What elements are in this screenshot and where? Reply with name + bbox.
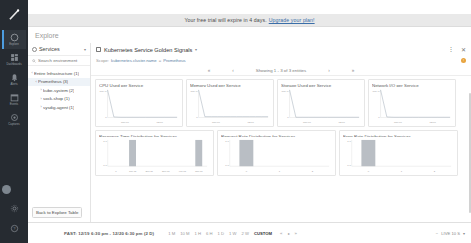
dashboard-header: Kubernetes Service Golden Signals ▾ ⋮ ✕ bbox=[91, 43, 471, 56]
search-input[interactable] bbox=[38, 58, 86, 63]
search-row[interactable] bbox=[28, 56, 90, 66]
chart-title: Response Time Distribution for Services bbox=[99, 134, 210, 137]
svg-text:Thu 00: Thu 00 bbox=[394, 121, 402, 124]
zoom-out-button[interactable]: − bbox=[436, 231, 438, 236]
sidebar-item-settings[interactable] bbox=[2, 199, 26, 218]
tree-item-label: Entire Infrastructure (1) bbox=[34, 71, 79, 76]
chart-plot: 1.00.0012 bbox=[221, 138, 332, 173]
svg-text:12:00: 12:00 bbox=[248, 121, 255, 124]
page-title-bar: Explore bbox=[28, 27, 471, 43]
svg-text:1.0: 1.0 bbox=[347, 140, 351, 143]
chart-card[interactable]: CPU Used per Service100 %0Thu 0012:00 bbox=[95, 79, 183, 127]
pager-last-button[interactable]: » bbox=[352, 68, 355, 73]
tree-item[interactable]: ›sock-shop (1) bbox=[28, 95, 90, 104]
svg-text:500 µs: 500 µs bbox=[195, 170, 203, 173]
time-nav-first[interactable]: « bbox=[280, 231, 282, 236]
chart-card[interactable]: Memory Used per Service100 %0Thu 0012:00 bbox=[186, 79, 274, 127]
back-to-explore-table-button[interactable]: Back to Explore Table bbox=[32, 207, 82, 218]
chart-row-1: CPU Used per Service100 %0Thu 0012:00Mem… bbox=[95, 79, 467, 127]
dashboard-icon bbox=[10, 53, 19, 62]
time-nav-play[interactable]: ▸ bbox=[288, 231, 290, 236]
sidebar-label-alerts: Alerts bbox=[10, 83, 17, 86]
sidebar-item-help[interactable]: ? bbox=[2, 219, 26, 238]
chart-card[interactable]: Storage Used per Service100 %0Thu 0012:0… bbox=[277, 79, 365, 127]
time-preset-1h[interactable]: 1 H bbox=[194, 231, 201, 236]
dashboard-title: Kubernetes Service Golden Signals bbox=[104, 47, 192, 53]
svg-text:1.0: 1.0 bbox=[103, 140, 107, 143]
time-preset-1m[interactable]: 1 M bbox=[168, 231, 175, 236]
panel-footer: Back to Explore Table bbox=[28, 202, 90, 222]
live-mode-button[interactable]: LIVE 10 S bbox=[441, 231, 460, 236]
chart-card[interactable]: Network I/O per Service100 %0Thu 0012:00 bbox=[368, 79, 456, 127]
chart-title: Request Rate Distribution for Services bbox=[221, 134, 332, 137]
sysdig-logo-icon[interactable] bbox=[4, 4, 24, 24]
time-preset-6h[interactable]: 6 H bbox=[206, 231, 213, 236]
time-preset-1w[interactable]: 1 W bbox=[229, 231, 236, 236]
svg-text:12:00: 12:00 bbox=[430, 121, 437, 124]
sidebar-item-dashboards[interactable]: Dashboards bbox=[2, 50, 26, 69]
avatar[interactable] bbox=[2, 185, 11, 194]
chart-plot: 100 %0Thu 0012:00 bbox=[281, 88, 361, 124]
svg-text:100 %: 100 % bbox=[191, 90, 199, 93]
svg-text:Thu 00: Thu 00 bbox=[121, 121, 129, 124]
chart-card[interactable]: Response Time Distribution for Services1… bbox=[95, 130, 214, 176]
upgrade-plan-link[interactable]: Upgrade your plan! bbox=[269, 17, 315, 23]
chart-plot: 1.00.0012 bbox=[343, 138, 454, 173]
chart-title: CPU Used per Service bbox=[99, 83, 179, 87]
svg-text:12:00: 12:00 bbox=[339, 121, 346, 124]
dashboard-chevron-down-icon[interactable]: ▾ bbox=[195, 47, 197, 52]
chevron-down-icon: ▾ bbox=[84, 47, 86, 52]
time-nav-last[interactable]: » bbox=[295, 231, 297, 236]
sidebar-item-captures[interactable]: Captures bbox=[2, 110, 26, 129]
svg-text:100 µs: 100 µs bbox=[129, 170, 137, 173]
svg-text:0: 0 bbox=[115, 170, 117, 173]
sidebar-label-captures: Captures bbox=[8, 123, 19, 126]
tree-item[interactable]: ‹Prometheus (3) bbox=[28, 78, 90, 87]
svg-text:0: 0 bbox=[246, 170, 248, 173]
live-chevron-down-icon[interactable]: ▾ bbox=[463, 231, 465, 236]
sidebar-item-explore[interactable]: Explore bbox=[2, 30, 26, 49]
scope-value: Prometheus bbox=[163, 58, 186, 63]
sidebar-label-dashboards: Dashboards bbox=[6, 63, 21, 66]
svg-text:400 µs: 400 µs bbox=[179, 170, 187, 173]
sidebar-item-events[interactable]: Events bbox=[2, 90, 26, 109]
time-preset-10m[interactable]: 10 M bbox=[180, 231, 189, 236]
time-range-label: PAST: 12/19 6:30 pm - 12/20 6:30 pm (2 D… bbox=[64, 231, 154, 236]
svg-text:300 µs: 300 µs bbox=[162, 170, 170, 173]
pager-prev-button[interactable]: ‹ bbox=[232, 68, 234, 73]
svg-text:Thu 00: Thu 00 bbox=[212, 121, 220, 124]
close-icon[interactable]: ✕ bbox=[461, 47, 466, 53]
time-preset-1d[interactable]: 1 D bbox=[218, 231, 225, 236]
compass-icon bbox=[10, 33, 19, 42]
pager-next-button[interactable]: › bbox=[328, 68, 330, 73]
help-icon: ? bbox=[10, 224, 19, 233]
svg-text:100 %: 100 % bbox=[282, 90, 290, 93]
tree-item-label: sysdig-agent (1) bbox=[43, 105, 74, 110]
svg-text:0.0: 0.0 bbox=[225, 164, 229, 167]
warning-badge-icon[interactable]: ! bbox=[461, 58, 466, 63]
pager-first-button[interactable]: « bbox=[208, 68, 211, 73]
chart-plot: 1.00.00100 µs200 µs300 µs400 µs500 µs bbox=[99, 138, 210, 173]
tree-item[interactable]: ‹Entire Infrastructure (1) bbox=[28, 69, 90, 78]
sidebar-item-alerts[interactable]: Alerts bbox=[2, 70, 26, 89]
gear-icon bbox=[10, 204, 19, 213]
pager-status-text: Showing 1 - 3 of 3 entities bbox=[256, 68, 307, 73]
chart-card[interactable]: Error Rate Distribution for Services1.00… bbox=[339, 130, 458, 176]
more-options-icon[interactable]: ⋮ bbox=[448, 47, 454, 53]
chart-plot: 100 %0Thu 0012:00 bbox=[190, 88, 270, 124]
svg-text:0: 0 bbox=[368, 170, 370, 173]
services-selector-label: Services bbox=[39, 46, 82, 52]
chart-title: Memory Used per Service bbox=[190, 83, 270, 87]
tree-item[interactable]: ›kube-system (2) bbox=[28, 86, 90, 95]
chart-card[interactable]: Request Rate Distribution for Services1.… bbox=[217, 130, 336, 176]
scope-row: Scope: kubernetes.cluster.name = Prometh… bbox=[91, 56, 471, 65]
chart-grid: CPU Used per Service100 %0Thu 0012:00Mem… bbox=[91, 76, 471, 222]
services-selector[interactable]: Services ▾ bbox=[28, 43, 90, 56]
rail-bottom-group: ? bbox=[2, 185, 26, 243]
tree-item[interactable]: ›sysdig-agent (1) bbox=[28, 103, 90, 112]
bell-icon bbox=[10, 73, 19, 82]
time-preset-custom[interactable]: CUSTOM bbox=[254, 231, 272, 236]
time-preset-2w[interactable]: 2 W bbox=[242, 231, 249, 236]
svg-text:100 %: 100 % bbox=[373, 90, 381, 93]
svg-text:Thu 00: Thu 00 bbox=[303, 121, 311, 124]
